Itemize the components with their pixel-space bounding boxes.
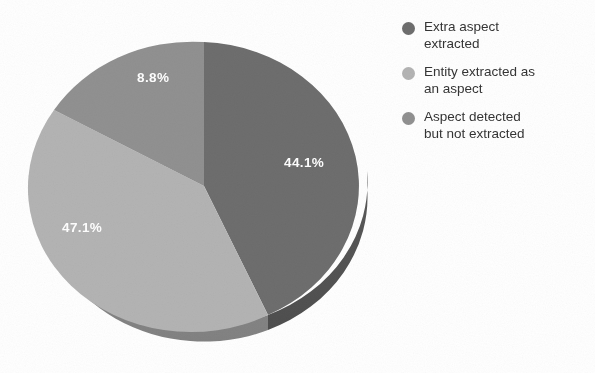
legend-item-extra-aspect-extracted[interactable]: Extra aspect extracted: [402, 18, 592, 52]
slice-value-label-medium: 8.8%: [137, 70, 169, 85]
legend-swatch-extra-aspect-extracted: [402, 22, 415, 35]
slice-value-label-dark: 44.1%: [284, 155, 324, 170]
legend-label-entity-extracted-as-an-aspect: Entity extracted as an aspect: [424, 63, 535, 97]
legend-item-aspect-detected-but-not-extracted[interactable]: Aspect detected but not extracted: [402, 108, 592, 142]
legend-label-aspect-detected-but-not-extracted: Aspect detected but not extracted: [424, 108, 525, 142]
legend-swatch-entity-extracted-as-an-aspect: [402, 67, 415, 80]
legend-label-extra-aspect-extracted: Extra aspect extracted: [424, 18, 499, 52]
pie-chart-svg: 44.1% 47.1% 8.8%: [0, 0, 395, 373]
legend-item-entity-extracted-as-an-aspect[interactable]: Entity extracted as an aspect: [402, 63, 592, 97]
slice-value-label-light: 47.1%: [62, 220, 102, 235]
pie-chart-figure: 44.1% 47.1% 8.8%: [0, 0, 395, 373]
legend-swatch-aspect-detected-but-not-extracted: [402, 112, 415, 125]
chart-legend: Extra aspect extracted Entity extracted …: [402, 18, 592, 153]
